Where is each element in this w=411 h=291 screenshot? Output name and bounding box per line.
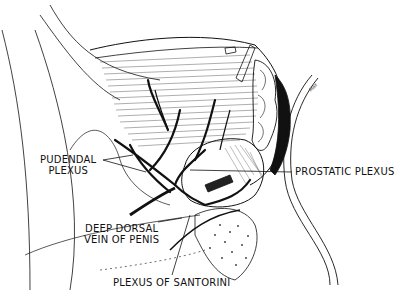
label-plexus-of-santorini: PLEXUS OF SANTORINI [113, 277, 230, 288]
prostate [182, 139, 264, 207]
leader-dorsal-vein [158, 218, 182, 222]
pubic-symphysis [195, 208, 257, 280]
label-pudendal-plexus: PUDENDAL PLEXUS [40, 154, 96, 176]
label-prostatic-plexus: PROSTATIC PLEXUS [295, 166, 394, 177]
label-deep-dorsal-line2: VEIN OF PENIS [84, 234, 159, 245]
label-pudendal-line1: PUDENDAL [40, 154, 96, 165]
seminal-vesicle [252, 60, 277, 150]
body-contour-outer [2, 30, 30, 290]
label-deep-dorsal-vein: DEEP DORSAL VEIN OF PENIS [84, 223, 159, 245]
leader-pudendal-1 [103, 155, 133, 160]
anatomical-illustration [0, 0, 411, 291]
bladder-outline [90, 37, 285, 185]
label-pudendal-line2: PLEXUS [40, 165, 96, 176]
label-deep-dorsal-line1: DEEP DORSAL [84, 223, 159, 234]
